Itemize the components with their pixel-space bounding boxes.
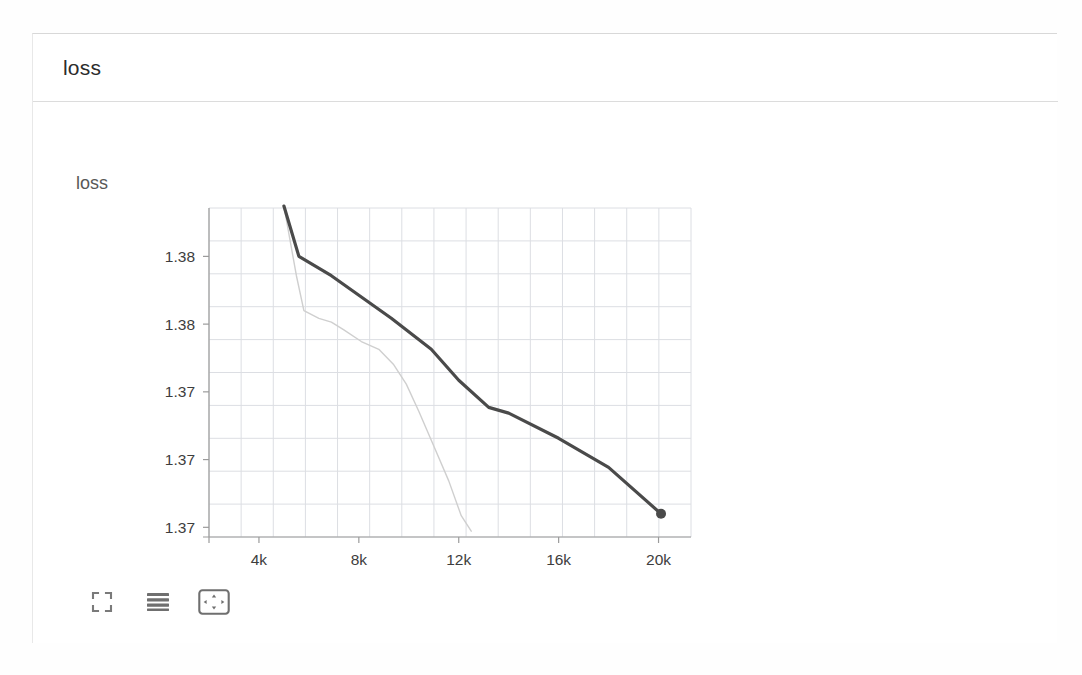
x-tick-label: 20k — [646, 551, 671, 568]
loss-card-panel: loss loss 1.381.381.371.371.37 4k8k12k16… — [32, 33, 1057, 643]
fullscreen-icon — [91, 591, 113, 616]
x-axis-tick-labels: 4k8k12k16k20k — [251, 551, 672, 568]
chart-toolbar[interactable] — [85, 588, 231, 618]
page-background: loss loss 1.381.381.371.371.37 4k8k12k16… — [0, 0, 1082, 675]
x-tick-label: 8k — [351, 551, 368, 568]
series-line — [284, 206, 471, 531]
lines-icon — [146, 592, 170, 615]
chart-block: loss 1.381.381.371.371.37 4k8k12k16k20k — [33, 102, 1058, 643]
axis-ticks — [203, 256, 659, 543]
x-tick-label: 16k — [546, 551, 571, 568]
x-tick-label: 4k — [251, 551, 268, 568]
chart-title: loss — [76, 172, 108, 194]
fit-domain-button[interactable] — [197, 588, 231, 618]
series-line — [284, 206, 661, 514]
series-endpoint-marker — [656, 509, 666, 519]
x-tick-label: 12k — [446, 551, 471, 568]
y-tick-label: 1.37 — [165, 519, 195, 536]
loss-chart-figure[interactable]: 1.381.381.371.371.37 4k8k12k16k20k — [69, 202, 709, 587]
y-axis-tick-labels: 1.381.381.371.371.37 — [165, 248, 195, 536]
y-tick-label: 1.37 — [165, 451, 195, 468]
y-tick-label: 1.38 — [165, 316, 195, 333]
fit-domain-icon — [198, 589, 230, 618]
loss-line-chart[interactable]: 1.381.381.371.371.37 4k8k12k16k20k — [69, 202, 709, 587]
data-table-button[interactable] — [141, 588, 175, 618]
card-header: loss — [33, 34, 1058, 102]
y-tick-label: 1.38 — [165, 248, 195, 265]
fullscreen-button[interactable] — [85, 588, 119, 618]
y-tick-label: 1.37 — [165, 383, 195, 400]
card-header-title: loss — [63, 55, 101, 81]
series-layer — [284, 206, 666, 531]
axis-lines — [203, 208, 691, 543]
